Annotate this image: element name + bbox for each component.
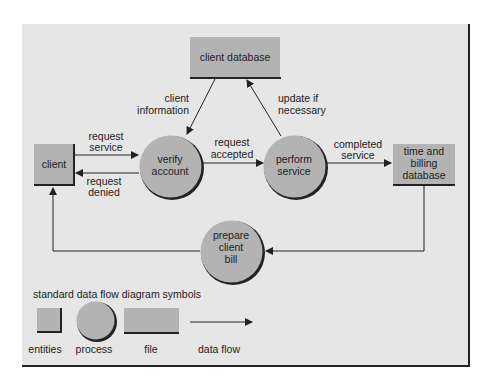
request-denied-label-2: denied	[88, 186, 120, 198]
prepare-client-bill-process: prepare client bill	[201, 221, 266, 286]
client-entity: client	[34, 144, 75, 185]
update-label-1: update if	[278, 92, 318, 104]
client-database-file: client database	[190, 37, 281, 78]
prepare-bill-label-3: bill	[225, 253, 238, 265]
flow-update-if-necessary: update if necessary	[247, 80, 327, 136]
time-billing-label-3: database	[402, 169, 445, 181]
update-label-2: necessary	[278, 104, 327, 116]
client-label: client	[42, 158, 67, 170]
request-accepted-label-1: request	[214, 136, 249, 148]
time-billing-database-file: time and billing database	[393, 144, 455, 185]
legend-title: standard data flow diagram symbols	[33, 288, 201, 300]
completed-service-label-2: service	[341, 149, 374, 161]
perform-service-label-1: perform	[276, 153, 312, 165]
time-billing-label-1: time and	[404, 145, 444, 157]
legend-entity-symbol	[37, 308, 62, 332]
verify-account-label-1: verify	[157, 153, 183, 165]
time-billing-label-2: billing	[411, 157, 438, 169]
flow-request-denied: request denied	[76, 173, 139, 198]
verify-account-label-2: account	[152, 165, 189, 177]
legend-process-label: process	[76, 343, 113, 355]
legend: standard data flow diagram symbols entit…	[28, 288, 252, 355]
legend-process-symbol	[77, 302, 118, 343]
flow-request-accepted: request accepted	[202, 136, 263, 163]
client-information-label-2: information	[137, 104, 189, 116]
prepare-bill-label-2: client	[219, 241, 244, 253]
prepare-bill-label-1: prepare	[213, 229, 249, 241]
request-accepted-label-2: accepted	[211, 148, 254, 160]
flow-completed-service: completed service	[327, 138, 391, 163]
client-database-label: client database	[200, 51, 271, 63]
client-information-label-1: client	[164, 92, 189, 104]
legend-entities-label: entities	[28, 343, 61, 355]
legend-data-flow-label: data flow	[198, 343, 240, 355]
verify-account-process: verify account	[140, 136, 205, 201]
legend-file-label: file	[144, 343, 158, 355]
request-service-label-2: service	[89, 141, 122, 153]
flow-client-information: client information	[137, 79, 215, 134]
perform-service-label-2: service	[277, 165, 310, 177]
data-flow-diagram: client database client time and billing …	[0, 0, 493, 382]
perform-service-process: perform service	[264, 136, 329, 201]
legend-file-symbol	[124, 308, 179, 333]
flow-request-service: request service	[75, 130, 138, 155]
